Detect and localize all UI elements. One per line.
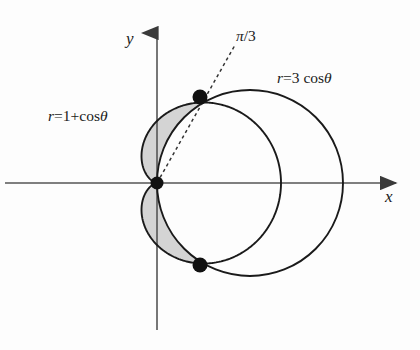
cardioid-equals: = [54, 107, 63, 124]
circle-equals: = [283, 69, 292, 86]
polar-curve-figure: y x r=1+cosθ r=3 cosθ π/3 [0, 0, 420, 350]
axes-group [5, 33, 396, 330]
point-lower-intersection [193, 258, 208, 273]
cardioid-fn: cos [79, 107, 100, 124]
circle-theta: θ [324, 69, 332, 86]
cardioid-expr: 1+ [63, 107, 80, 124]
angle-denominator: 3 [248, 27, 256, 44]
circle-expr: 3 [292, 69, 300, 86]
circle-fn: cos [303, 69, 324, 86]
cardioid-equation-label: r=1+cosθ [48, 108, 108, 124]
cardioid-theta: θ [100, 107, 108, 124]
angle-pi-symbol: π [236, 27, 244, 44]
ray-angle-label: π/3 [236, 28, 256, 44]
point-upper-intersection [193, 90, 208, 105]
point-origin-pole [151, 177, 164, 190]
x-axis-label: x [385, 188, 393, 205]
figure-canvas [0, 0, 420, 350]
circle-equation-label: r=3 cosθ [277, 70, 332, 86]
y-axis-label: y [126, 30, 134, 47]
